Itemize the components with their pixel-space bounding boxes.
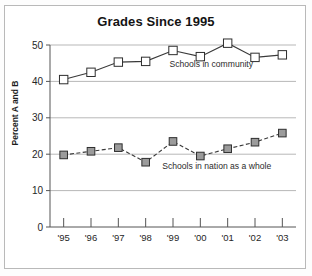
x-tick-label: '97	[112, 232, 124, 243]
x-tick-label: '01	[221, 232, 233, 243]
x-tick-label: '03	[276, 232, 288, 243]
y-tick-label: 10	[32, 185, 44, 196]
data-point-marker	[197, 152, 205, 160]
data-point-marker	[115, 144, 123, 152]
data-point-marker	[169, 46, 177, 54]
data-point-marker	[59, 75, 67, 83]
series-annotation-community: Schools in community	[169, 59, 253, 69]
x-tick-label: '02	[249, 232, 261, 243]
data-point-marker	[251, 138, 259, 146]
plot-area: 01020304050'95'96'97'98'99'00'01'02'03Sc…	[0, 0, 312, 276]
data-point-marker	[60, 151, 68, 159]
data-point-marker	[223, 39, 231, 47]
x-tick-label: '00	[194, 232, 206, 243]
data-point-marker	[279, 129, 287, 137]
x-tick-label: '98	[139, 232, 151, 243]
y-tick-label: 50	[32, 40, 44, 51]
data-point-marker	[142, 158, 150, 166]
data-point-marker	[224, 145, 232, 153]
data-point-marker	[141, 57, 149, 65]
chart-figure: Grades Since 1995 Percent A and B 010203…	[0, 0, 312, 276]
series-annotation-nation: Schools in nation as a whole	[162, 161, 271, 171]
data-point-marker	[87, 68, 95, 76]
data-point-marker	[278, 51, 286, 59]
data-point-marker	[114, 58, 122, 66]
y-tick-label: 40	[32, 76, 44, 87]
y-tick-label: 30	[32, 112, 44, 123]
y-tick-label: 0	[37, 222, 43, 233]
x-tick-label: '96	[85, 232, 97, 243]
x-tick-label: '95	[57, 232, 69, 243]
y-tick-label: 20	[32, 149, 44, 160]
data-point-marker	[87, 147, 95, 155]
data-point-marker	[169, 138, 177, 146]
x-tick-label: '99	[167, 232, 179, 243]
